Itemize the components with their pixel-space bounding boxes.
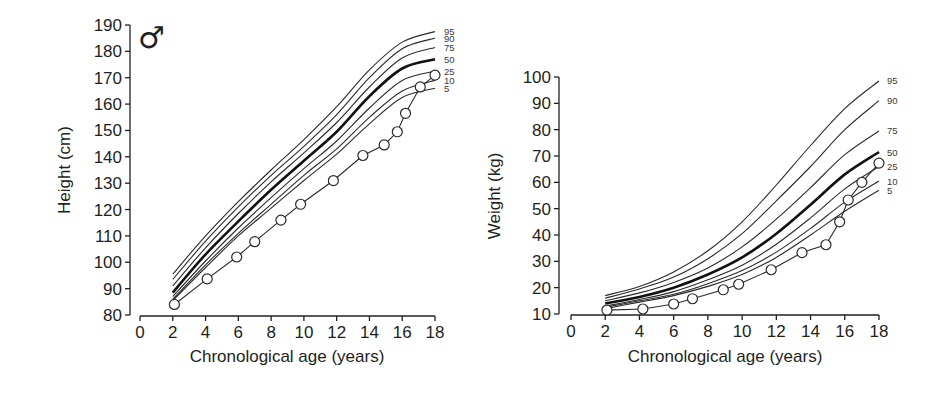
height-x-tick-label: 6 <box>234 323 243 342</box>
weight-patient-point <box>766 265 776 275</box>
height-x-tick-label: 4 <box>201 323 210 342</box>
height-patient-point <box>415 82 425 92</box>
growth-charts-figure: 8090100110120130140150160170180190 02468… <box>0 0 942 400</box>
height-x-axis-title: Chronological age (years) <box>190 347 385 366</box>
height-y-tick-label: 190 <box>94 16 122 35</box>
height-patient-line <box>174 75 435 304</box>
weight-x-tick-label: 6 <box>669 322 678 341</box>
weight-y-tick-label: 100 <box>523 68 551 87</box>
weight-x-tick-label: 18 <box>870 322 889 341</box>
height-patient-point <box>401 108 411 118</box>
weight-x-tick-label: 4 <box>635 322 644 341</box>
height-patient-point <box>276 215 286 225</box>
weight-chart: 102030405060708090100 024681012141618 95… <box>485 68 898 366</box>
height-x-tick-label: 10 <box>294 323 313 342</box>
weight-percentile-label: 75 <box>887 125 898 136</box>
weight-y-tick-label: 80 <box>532 121 551 140</box>
weight-x-tick-label: 12 <box>767 322 786 341</box>
height-patient-series <box>169 70 440 309</box>
weight-patient-point <box>874 158 884 168</box>
height-patient-point <box>296 199 306 209</box>
height-patient-point <box>358 151 368 161</box>
weight-x-tick-label: 0 <box>566 322 575 341</box>
weight-patient-point <box>638 304 648 314</box>
weight-patient-line <box>607 163 879 310</box>
height-patient-point <box>232 252 242 262</box>
weight-percentile-90-curve <box>605 101 879 299</box>
weight-patient-point <box>602 305 612 315</box>
height-x-tick-label: 14 <box>360 323 379 342</box>
height-x-axis: 024681012141618 <box>135 316 444 342</box>
height-x-tick-label: 12 <box>327 323 346 342</box>
height-patient-point <box>379 140 389 150</box>
height-x-tick-label: 2 <box>168 323 177 342</box>
height-patient-point <box>328 176 338 186</box>
weight-percentile-label: 5 <box>887 185 892 196</box>
height-percentile-label: 5 <box>444 83 449 94</box>
height-y-tick-label: 80 <box>103 306 122 325</box>
height-percentile-75-curve <box>173 47 435 286</box>
weight-y-tick-label: 10 <box>532 305 551 324</box>
height-patient-point <box>430 70 440 80</box>
weight-x-tick-label: 16 <box>835 322 854 341</box>
weight-y-tick-label: 50 <box>532 200 551 219</box>
height-patient-point <box>202 274 212 284</box>
height-x-tick-label: 16 <box>393 323 412 342</box>
weight-y-tick-label: 70 <box>532 147 551 166</box>
weight-patient-point <box>821 240 831 250</box>
weight-percentile-labels: 9590755025105 <box>887 75 898 195</box>
height-y-tick-label: 110 <box>95 227 122 246</box>
height-percentile-label: 50 <box>444 54 455 65</box>
height-patient-point <box>250 237 260 247</box>
weight-patient-point <box>843 195 853 205</box>
weight-y-tick-label: 30 <box>532 252 551 271</box>
weight-x-axis-title: Chronological age (years) <box>628 347 823 366</box>
height-x-tick-label: 18 <box>426 323 445 342</box>
height-y-tick-label: 130 <box>94 174 122 193</box>
height-percentile-10-curve <box>173 80 435 299</box>
height-y-tick-label: 100 <box>94 253 122 272</box>
weight-x-axis: 024681012141618 <box>566 315 888 341</box>
weight-percentile-95-curve <box>605 81 879 296</box>
height-y-tick-label: 150 <box>94 121 122 140</box>
height-patient-point <box>169 299 179 309</box>
weight-percentile-label: 90 <box>887 95 898 106</box>
height-percentile-labels: 9590755025105 <box>444 26 455 94</box>
weight-y-axis-title: Weight (kg) <box>485 153 504 240</box>
height-percentile-25-curve <box>173 71 435 296</box>
weight-x-tick-label: 2 <box>600 322 609 341</box>
height-chart: 8090100110120130140150160170180190 02468… <box>55 16 455 366</box>
weight-patient-point <box>797 248 807 258</box>
height-y-axis-title: Height (cm) <box>55 126 74 214</box>
height-y-tick-label: 90 <box>103 280 122 299</box>
height-y-axis: 8090100110120130140150160170180190 <box>94 16 130 325</box>
weight-patient-point <box>835 217 845 227</box>
weight-percentile-label: 25 <box>887 161 898 172</box>
weight-patient-point <box>857 177 867 187</box>
weight-patient-point <box>718 285 728 295</box>
weight-patient-point <box>687 294 697 304</box>
weight-percentile-label: 50 <box>887 147 898 158</box>
height-y-tick-label: 170 <box>94 69 122 88</box>
figure-canvas: 8090100110120130140150160170180190 02468… <box>0 0 942 400</box>
height-patient-point <box>392 127 402 137</box>
weight-x-tick-label: 8 <box>703 322 712 341</box>
height-percentile-label: 75 <box>444 42 455 53</box>
weight-x-tick-label: 14 <box>801 322 820 341</box>
height-percentile-curves <box>173 32 435 301</box>
height-y-tick-label: 180 <box>94 42 122 61</box>
height-percentile-5-curve <box>173 88 435 300</box>
height-y-tick-label: 160 <box>94 95 122 114</box>
weight-percentile-label: 95 <box>887 75 898 86</box>
height-x-tick-label: 8 <box>266 323 275 342</box>
weight-patient-point <box>669 299 679 309</box>
weight-y-tick-label: 90 <box>532 94 551 113</box>
male-symbol-icon: ♂ <box>138 20 165 55</box>
height-x-tick-label: 0 <box>135 323 144 342</box>
weight-y-tick-label: 20 <box>532 279 551 298</box>
weight-x-tick-label: 10 <box>733 322 752 341</box>
weight-patient-point <box>734 279 744 289</box>
weight-y-axis: 102030405060708090100 <box>523 68 559 324</box>
weight-percentile-curves <box>605 81 879 309</box>
weight-y-tick-label: 60 <box>532 173 551 192</box>
